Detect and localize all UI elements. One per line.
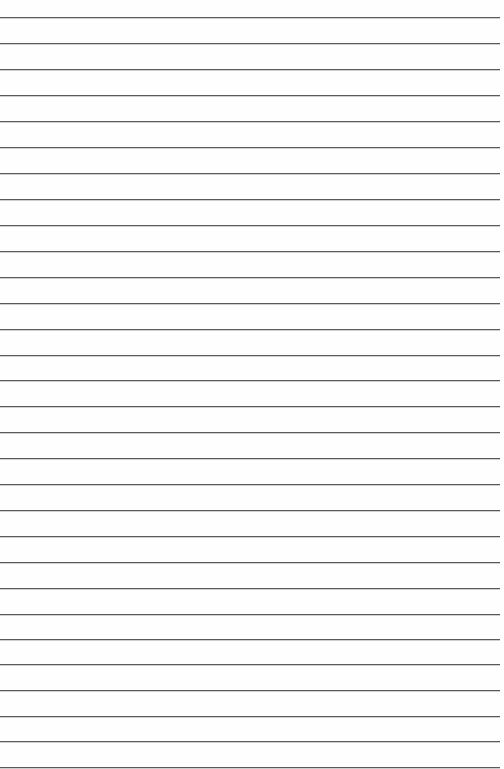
ruled-line	[0, 741, 500, 742]
ruled-line	[0, 536, 500, 537]
ruled-line	[0, 380, 500, 381]
ruled-line	[0, 69, 500, 70]
lined-paper-page	[0, 0, 504, 769]
ruled-line	[0, 588, 500, 589]
ruled-line	[0, 716, 500, 717]
ruled-line	[0, 355, 500, 356]
ruled-line	[0, 173, 500, 174]
ruled-line	[0, 562, 500, 563]
ruled-line	[0, 639, 500, 640]
ruled-line	[0, 147, 500, 148]
ruled-line	[0, 484, 500, 485]
ruled-line	[0, 458, 500, 459]
ruled-line	[0, 121, 500, 122]
ruled-line	[0, 225, 500, 226]
ruled-line	[0, 690, 500, 691]
ruled-line	[0, 17, 500, 18]
ruled-line	[0, 95, 500, 96]
ruled-line	[0, 406, 500, 407]
ruled-line	[0, 614, 500, 615]
ruled-line	[0, 303, 500, 304]
ruled-line	[0, 432, 500, 433]
ruled-line	[0, 664, 500, 665]
ruled-line	[0, 510, 500, 511]
ruled-line	[0, 277, 500, 278]
ruled-line	[0, 43, 500, 44]
ruled-line	[0, 767, 500, 768]
ruled-line	[0, 329, 500, 330]
ruled-line	[0, 251, 500, 252]
ruled-line	[0, 199, 500, 200]
